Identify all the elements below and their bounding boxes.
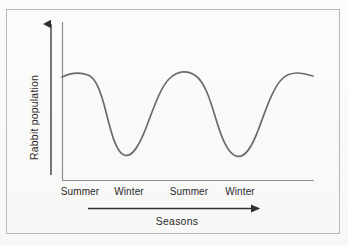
y-axis-label: Rabbit population (28, 75, 40, 160)
x-tick-label-summer-1: Summer (61, 186, 100, 197)
x-tick-label-summer-2: Summer (170, 186, 209, 197)
population-curve (62, 72, 313, 157)
x-axis-label: Seasons (156, 215, 198, 227)
figure-page: Rabbit population Summer Winter Summer W… (0, 0, 348, 245)
rabbit-population-chart: Rabbit population Summer Winter Summer W… (0, 0, 348, 245)
x-tick-label-winter-2: Winter (225, 186, 255, 197)
x-tick-label-winter-1: Winter (114, 186, 144, 197)
